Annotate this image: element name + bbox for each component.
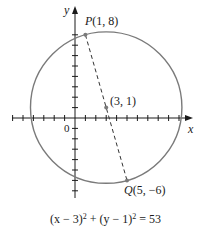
point-q-label: Q(5, −6) bbox=[124, 183, 165, 197]
circle-equation: (x − 3)2 + (y − 1)2 = 53 bbox=[50, 212, 161, 227]
point-center bbox=[104, 106, 108, 110]
y-axis-label: y bbox=[63, 3, 70, 17]
center-label: (3, 1) bbox=[110, 94, 136, 108]
point-q bbox=[125, 178, 129, 182]
x-axis-label: x bbox=[187, 122, 194, 136]
point-p bbox=[83, 33, 87, 37]
origin-label: 0 bbox=[64, 122, 70, 134]
x-axis-arrow-icon bbox=[185, 115, 193, 121]
y-axis-arrow-icon bbox=[72, 6, 78, 14]
point-p-label: P(1, 8) bbox=[84, 14, 118, 28]
coordinate-plane: y x 0 P(1, 8) (3, 1) Q(5, −6) (x − 3)2 +… bbox=[0, 0, 202, 231]
